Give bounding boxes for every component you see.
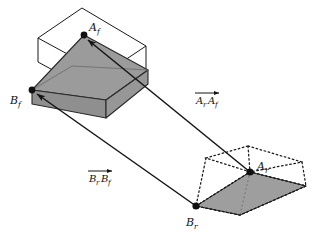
diagram-canvas: A f B f A r B r A r A f B r B f: [0, 0, 316, 239]
vector-label-ArAf-base1: A: [195, 95, 203, 106]
point-label-Br-sub: r: [194, 222, 198, 231]
vector-label-ArAf-base2: A: [207, 95, 215, 106]
point-label-Ar-sub: r: [265, 166, 269, 175]
vertex-dot-Br: [192, 202, 199, 209]
vertex-dot-Af: [81, 32, 88, 39]
point-label-Af-base: A: [88, 21, 97, 34]
point-label-Bf-base: B: [9, 94, 18, 107]
geometry-figure: A f B f A r B r A r A f B r B f: [0, 0, 316, 239]
vertex-dot-Bf: [29, 87, 36, 94]
vertex-dot-Ar: [246, 168, 253, 175]
point-label-Br-base: B: [185, 216, 194, 229]
point-label-Ar-base: A: [256, 160, 265, 173]
figure-background: [0, 0, 316, 239]
